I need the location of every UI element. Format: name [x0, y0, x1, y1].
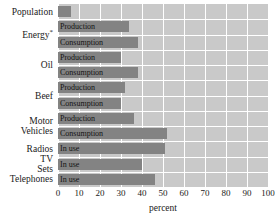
x-tick-label: 90 — [243, 187, 252, 199]
x-tick-label: 40 — [138, 187, 147, 199]
percent-bar-chart: PopulationEnergy*OilBeefMotorVehiclesRad… — [0, 0, 278, 223]
category-label-tv-sets: TVSets — [37, 154, 53, 174]
category-label-oil: Oil — [41, 60, 53, 70]
x-axis-title: percent — [58, 203, 268, 213]
x-tick-label: 60 — [180, 187, 189, 199]
gridline-horizontal — [58, 126, 268, 127]
bar-series-label: In use — [60, 174, 79, 185]
footnote-asterisk: * — [50, 27, 54, 35]
gridline-horizontal — [58, 111, 268, 112]
bar-series-label: Production — [60, 52, 95, 63]
gridline-horizontal — [58, 50, 268, 51]
category-label-radios: Radios — [27, 144, 53, 154]
gridline-horizontal — [58, 80, 268, 81]
bar-series-label: Consumption — [60, 98, 103, 109]
x-tick-label: 80 — [222, 187, 231, 199]
bar — [58, 6, 71, 17]
bar-series-label: Production — [60, 113, 95, 124]
bar-series-label: In use — [60, 143, 79, 154]
x-tick-label: 20 — [96, 187, 105, 199]
x-tick-label: 0 — [56, 187, 61, 199]
gridline-horizontal — [58, 172, 268, 173]
gridline-horizontal — [58, 65, 268, 66]
category-label-column: PopulationEnergy*OilBeefMotorVehiclesRad… — [0, 0, 56, 187]
category-label-beef: Beef — [35, 91, 53, 101]
category-label-population: Population — [12, 7, 53, 17]
bar-series-label: Consumption — [60, 128, 103, 139]
gridline-horizontal — [58, 141, 268, 142]
bar-series-label: Production — [60, 21, 95, 32]
bar-series-label: Consumption — [60, 37, 103, 48]
bar-series-label: In use — [60, 159, 79, 170]
bar-series-label: Consumption — [60, 67, 103, 78]
category-label-energy: Energy* — [22, 30, 53, 40]
gridline-vertical — [268, 4, 269, 187]
plot-area: ProductionConsumptionProductionConsumpti… — [58, 4, 268, 187]
x-axis-tick-labels: 0102030405060708090100 — [58, 187, 268, 201]
category-label-motor-vehicles: MotorVehicles — [21, 116, 53, 136]
x-tick-label: 10 — [75, 187, 84, 199]
x-tick-label: 100 — [261, 187, 275, 199]
x-tick-label: 50 — [159, 187, 168, 199]
bar-series-label: Production — [60, 82, 95, 93]
gridline-horizontal — [58, 19, 268, 20]
category-label-telephones: Telephones — [10, 174, 53, 184]
x-tick-label: 30 — [117, 187, 126, 199]
x-tick-label: 70 — [201, 187, 210, 199]
